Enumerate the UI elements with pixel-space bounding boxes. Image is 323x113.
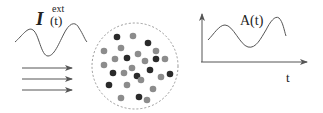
input-panel: I ext (t) (15, 3, 87, 90)
neuron-dot-gray (135, 51, 142, 58)
neuron-dot-gray (121, 70, 128, 77)
input-argument: (t) (50, 13, 62, 28)
neuron-dot-gray (101, 48, 108, 55)
neuron-dot-gray (130, 33, 137, 40)
neuron-dot-gray (138, 77, 145, 84)
neuron-dot-gray (153, 48, 160, 55)
neuron-dot-gray (112, 56, 119, 63)
neuron-dot-gray (150, 86, 157, 93)
neuron-dot-dark (106, 82, 113, 89)
neuron-dot-dark (136, 94, 143, 101)
neuron-dot-gray (142, 58, 149, 65)
diagram-canvas: I ext (t) A(t) t (0, 0, 323, 113)
neuron-dot-gray (162, 56, 169, 63)
neuron-dot-gray (118, 45, 125, 52)
neuron-population (92, 23, 178, 109)
neuron-dot-dark (114, 34, 121, 41)
neuron-dot-dark (167, 71, 174, 78)
activity-label: A(t) (240, 13, 264, 29)
neuron-dot-dark (153, 56, 160, 63)
neuron-dot-dark (110, 70, 117, 77)
input-waveform (15, 24, 87, 56)
neuron-dot-gray (101, 62, 108, 69)
neuron-dot-dark (145, 40, 152, 47)
x-axis-label: t (286, 70, 290, 85)
input-symbol: I (35, 8, 44, 29)
neuron-dot-gray (124, 82, 131, 89)
neuron-dot-dark (124, 55, 131, 62)
input-arrows (22, 68, 72, 90)
activity-panel: A(t) t (201, 13, 307, 85)
neuron-dot-gray (144, 97, 151, 104)
neuron-dot-gray (129, 65, 136, 72)
neuron-dot-gray (118, 95, 125, 102)
neuron-dot-gray (158, 74, 165, 81)
neuron-dot-dark (147, 67, 154, 74)
neuron-dots (101, 33, 174, 104)
